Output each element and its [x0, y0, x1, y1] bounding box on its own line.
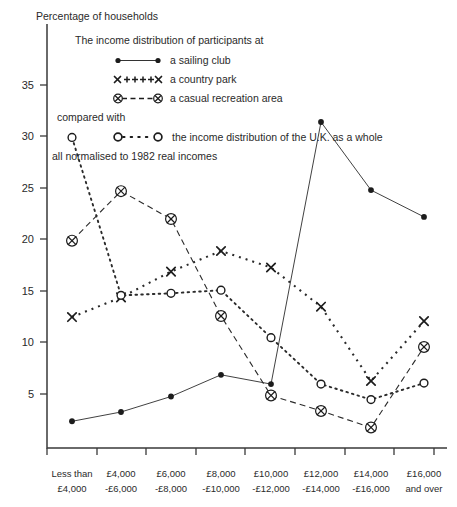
y-tick-35: 35 [22, 79, 34, 91]
x-tick-4-line1: £10,000 [254, 468, 288, 479]
data-point-marker [317, 303, 325, 311]
y-tick-20: 20 [22, 233, 34, 245]
data-point-marker [168, 394, 174, 400]
legend-label-uk-whole: the income distribution of the U.K. as a… [172, 131, 383, 143]
legend-entry-uk-whole: the income distribution of the U.K. as a… [114, 131, 383, 143]
y-axis-title: Percentage of households [36, 10, 158, 22]
x-tick-5-line1: £12,000 [304, 468, 338, 479]
data-point-marker [116, 186, 127, 197]
legend-entry-country-park: a country park [115, 73, 238, 85]
legend-label-sailing-club: a sailing club [170, 54, 231, 66]
data-point-marker [266, 390, 277, 401]
data-point-marker [367, 377, 375, 385]
data-point-marker [216, 311, 227, 322]
filled-circle-icon [115, 58, 160, 63]
data-point-marker [267, 263, 275, 271]
chart-figure: Percentage of households The income dist… [0, 0, 457, 507]
data-point-marker [218, 372, 224, 378]
x-tick-2-line2: -£8,000 [155, 483, 187, 494]
data-point-marker [118, 409, 124, 415]
x-tick-2-line1: £6,000 [156, 468, 185, 479]
data-point-marker [268, 381, 274, 387]
x-tick-0-line2: £4,000 [57, 483, 86, 494]
series-line [72, 191, 424, 427]
data-point-marker [367, 396, 375, 404]
chart-legend: The income distribution of participants … [52, 34, 383, 162]
legend-label-casual-recreation: a casual recreation area [170, 92, 283, 104]
data-point-marker [368, 187, 374, 193]
plot-axes [40, 24, 447, 455]
data-point-marker [69, 418, 75, 424]
x-tick-7-line2: and over [406, 483, 443, 494]
series-3 [67, 186, 430, 433]
y-tick-30: 30 [22, 130, 34, 142]
data-point-marker [68, 134, 76, 142]
data-point-marker [67, 235, 78, 246]
data-point-marker [217, 286, 225, 294]
x-tick-5-line2: -£14,000 [302, 483, 340, 494]
y-axis-tick-labels: 35 30 25 20 15 10 5 [22, 79, 34, 400]
y-tick-5: 5 [28, 388, 34, 400]
data-point-marker [420, 379, 428, 387]
legend-entry-sailing-club: a sailing club [115, 54, 230, 66]
x-tick-3-line1: £8,000 [206, 468, 235, 479]
open-circle-icon [114, 133, 162, 141]
data-point-marker [317, 380, 325, 388]
data-point-marker [117, 291, 125, 299]
x-tick-0-line1: Less than [51, 468, 92, 479]
legend-label-country-park: a country park [170, 73, 237, 85]
data-point-marker [167, 267, 175, 275]
series-4 [68, 134, 428, 404]
x-tick-1-line1: £4,000 [106, 468, 135, 479]
x-cross-icon [115, 77, 162, 83]
legend-entry-casual-recreation: a casual recreation area [114, 92, 283, 104]
y-axis-ticks [40, 85, 47, 394]
legend-heading: The income distribution of participants … [75, 34, 264, 46]
data-point-marker [421, 214, 427, 220]
x-tick-6-line1: £14,000 [354, 468, 388, 479]
data-point-marker [166, 214, 177, 225]
chart-svg: Percentage of households The income dist… [0, 0, 457, 507]
x-axis-tick-labels: Less than £4,000 £4,000 -£6,000 £6,000 -… [51, 468, 442, 494]
x-tick-6-line2: -£16,000 [352, 483, 390, 494]
data-point-marker [316, 406, 327, 417]
series-line [72, 122, 424, 421]
data-point-marker [419, 342, 430, 353]
legend-compared-with: compared with [57, 111, 125, 123]
axis-lines [47, 24, 447, 448]
x-tick-4-line2: -£12,000 [252, 483, 290, 494]
x-tick-7-line1: £16,000 [407, 468, 441, 479]
x-tick-3-line2: -£10,000 [202, 483, 240, 494]
x-tick-1-line2: -£6,000 [105, 483, 137, 494]
data-point-marker [366, 422, 377, 433]
data-point-marker [318, 119, 324, 125]
data-point-marker [267, 334, 275, 342]
x-axis-ticks [47, 448, 434, 455]
circled-cross-icon [114, 94, 163, 103]
y-tick-15: 15 [22, 285, 34, 297]
data-point-marker [167, 289, 175, 297]
y-tick-25: 25 [22, 182, 34, 194]
series-line [72, 138, 424, 400]
data-point-marker [420, 317, 428, 325]
data-point-marker [68, 313, 76, 321]
y-tick-10: 10 [22, 336, 34, 348]
data-point-marker [217, 247, 225, 255]
data-series-layer [67, 119, 430, 433]
